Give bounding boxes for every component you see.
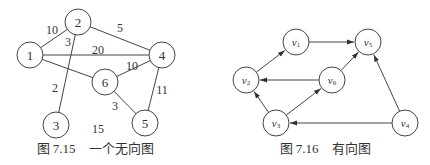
arrow-v3-to-v2 <box>254 91 269 112</box>
edge-weight-label: 5 <box>117 21 123 35</box>
arrow-v3-to-v6 <box>286 89 321 116</box>
node-label-subscript: 3 <box>277 122 281 130</box>
node-v5: v5 <box>355 29 381 55</box>
undirected-nodes: 123456 <box>17 9 175 138</box>
edge-weight-label: 10 <box>126 59 138 73</box>
node-v4: v4 <box>392 110 418 136</box>
node-label-subscript: 2 <box>247 79 251 87</box>
arrow-v4-to-v5 <box>374 55 400 111</box>
diagram-canvas: 10520231031115 123456 图 7.15 一个无向图 v1v5v… <box>0 0 430 165</box>
node-label-subscript: 1 <box>297 41 301 49</box>
node-v6: v6 <box>319 67 345 93</box>
node-4: 4 <box>149 42 175 68</box>
node-label: 5 <box>142 116 149 131</box>
node-label: 2 <box>75 15 82 30</box>
edge-weight-label: 2 <box>52 81 58 95</box>
figure-caption-7-16: 图 7.16 有向图 <box>280 141 371 156</box>
node-label: 3 <box>53 118 60 133</box>
node-label-subscript: 4 <box>406 122 410 130</box>
node-label-subscript: 5 <box>369 41 373 49</box>
edge-weight-label: 10 <box>46 23 58 37</box>
node-v1: v1 <box>283 29 309 55</box>
arrow-v6-to-v5 <box>341 52 358 70</box>
node-2: 2 <box>65 9 91 35</box>
directed-graph: v1v5v2v6v3v4 图 7.16 有向图 <box>233 29 418 156</box>
directed-nodes: v1v5v2v6v3v4 <box>233 29 418 136</box>
node-v3: v3 <box>263 110 289 136</box>
edge-weight-label: 3 <box>65 35 71 49</box>
node-1: 1 <box>17 42 43 68</box>
node-5: 5 <box>132 110 158 136</box>
node-label: 4 <box>159 48 166 63</box>
node-6: 6 <box>92 69 118 95</box>
figure-caption-7-15: 图 7.15 一个无向图 <box>37 141 154 156</box>
edge-weight-label: 20 <box>92 43 104 57</box>
stray-weight-label: 15 <box>92 122 104 136</box>
edge-weight-label: 11 <box>156 83 168 97</box>
undirected-graph: 10520231031115 123456 图 7.15 一个无向图 <box>17 9 175 156</box>
node-label: 1 <box>27 48 34 63</box>
node-label-subscript: 6 <box>333 79 337 87</box>
arrow-v2-to-v1 <box>256 50 285 72</box>
node-label: 6 <box>102 75 109 90</box>
node-3: 3 <box>43 112 69 138</box>
node-v2: v2 <box>233 67 259 93</box>
edge-weight-label: 3 <box>112 99 118 113</box>
